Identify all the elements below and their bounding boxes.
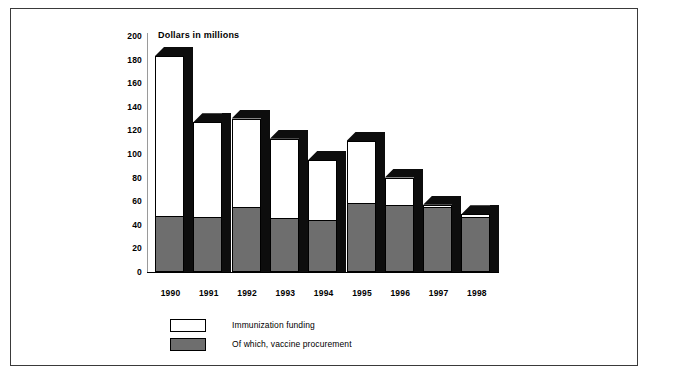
bar-column (270, 139, 308, 281)
bar-side-face (222, 113, 231, 272)
bar-segment-vaccine-procurement (233, 207, 260, 271)
bar-column (461, 214, 499, 281)
bar-side-face (261, 110, 270, 272)
bar-column (155, 56, 193, 281)
y-axis-tick-label: 160 (112, 78, 142, 88)
bar-column (385, 178, 423, 281)
y-axis-tick-label: 140 (112, 102, 142, 112)
bar-column (347, 141, 385, 281)
bar-side-face (452, 196, 461, 272)
x-axis-tick-label: 1995 (341, 288, 384, 298)
bar-segment-vaccine-procurement (386, 205, 413, 271)
legend-label: Of which, vaccine procurement (232, 339, 352, 349)
y-axis-tick-label: 0 (112, 267, 142, 277)
y-axis-tick-label: 20 (112, 243, 142, 253)
x-axis-tick-label: 1992 (226, 288, 269, 298)
bar-column (308, 160, 346, 281)
bar-segment-vaccine-procurement (309, 220, 336, 271)
y-axis-line (147, 33, 148, 273)
bar-column (193, 122, 231, 281)
y-axis-tick-label: 200 (112, 31, 142, 41)
bar-side-face (376, 132, 385, 272)
bar-segment-vaccine-procurement (424, 207, 451, 271)
y-axis-tick-label: 40 (112, 220, 142, 230)
x-axis-tick-label: 1998 (455, 288, 498, 298)
y-axis-tick-label: 80 (112, 173, 142, 183)
chart-title: Dollars in millions (158, 30, 239, 40)
bar-segment-vaccine-procurement (271, 218, 298, 271)
bar-segment-vaccine-procurement (194, 217, 221, 271)
bar-column (423, 205, 461, 281)
x-axis-tick-label: 1991 (187, 288, 230, 298)
y-axis-tick-label: 180 (112, 55, 142, 65)
legend-swatch (170, 338, 206, 351)
bar-side-face (299, 130, 308, 272)
y-axis-tick-label: 120 (112, 125, 142, 135)
bar-side-face (337, 151, 346, 272)
legend-label: Immunization funding (232, 320, 315, 330)
x-axis-tick-label: 1996 (379, 288, 422, 298)
x-axis-tick-label: 1990 (149, 288, 192, 298)
x-axis-tick-label: 1997 (417, 288, 460, 298)
bar-segment-vaccine-procurement (156, 216, 183, 271)
x-axis-tick-label: 1994 (302, 288, 345, 298)
bar-segment-vaccine-procurement (462, 217, 489, 271)
bar-side-face (490, 205, 499, 272)
y-axis-tick-label: 60 (112, 196, 142, 206)
bar-column (232, 119, 270, 281)
y-axis-tick-label: 100 (112, 149, 142, 159)
x-axis-tick-label: 1993 (264, 288, 307, 298)
bar-chart: Dollars in millions 20018016014012010080… (0, 0, 673, 388)
bar-side-face (184, 47, 193, 272)
legend-swatch (170, 319, 206, 332)
bar-segment-vaccine-procurement (348, 203, 375, 271)
bar-side-face (414, 169, 423, 272)
